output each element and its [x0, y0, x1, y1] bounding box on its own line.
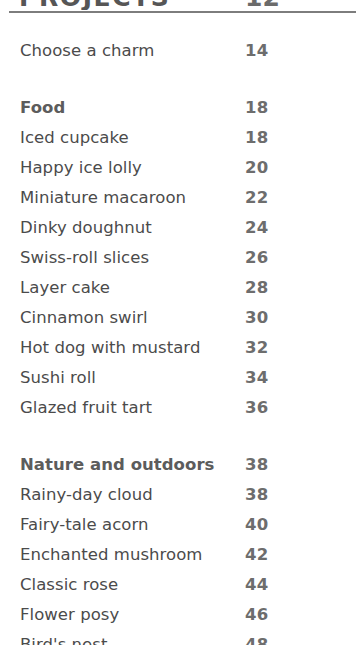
contents-entry-page-number: 18: [245, 93, 269, 123]
contents-entry-row[interactable]: Hot dog with mustard32: [0, 333, 356, 363]
contents-group-food: Food18Iced cupcake18Happy ice lolly20Min…: [0, 93, 356, 423]
contents-entry-label: Fairy-tale acorn: [20, 510, 148, 540]
contents-entry-page-number: 24: [245, 213, 269, 243]
contents-entry-row[interactable]: Layer cake28: [0, 273, 356, 303]
table-of-contents-page: PROJECTS 12 Choose a charm14Food18Iced c…: [0, 0, 356, 645]
contents-entry-row[interactable]: Glazed fruit tart36: [0, 393, 356, 423]
contents-entry-row[interactable]: Bird's nest48: [0, 630, 356, 645]
contents-entry-row[interactable]: Choose a charm14: [0, 36, 356, 66]
contents-entry-label: Classic rose: [20, 570, 118, 600]
contents-entry-row[interactable]: Enchanted mushroom42: [0, 540, 356, 570]
contents-entry-page-number: 38: [245, 450, 269, 480]
contents-entry-label: Rainy-day cloud: [20, 480, 153, 510]
contents-list: Choose a charm14Food18Iced cupcake18Happ…: [0, 36, 356, 645]
contents-entry-row[interactable]: Iced cupcake18: [0, 123, 356, 153]
section-heading-label: Nature and outdoors: [20, 450, 214, 480]
contents-entry-page-number: 18: [245, 123, 269, 153]
contents-entry-row[interactable]: Dinky doughnut24: [0, 213, 356, 243]
contents-entry-label: Choose a charm: [20, 36, 154, 66]
section-heading-row[interactable]: Food18: [0, 93, 356, 123]
contents-entry-page-number: 26: [245, 243, 269, 273]
contents-entry-page-number: 32: [245, 333, 269, 363]
contents-entry-page-number: 22: [245, 183, 269, 213]
contents-entry-label: Sushi roll: [20, 363, 96, 393]
page-title-number: 12: [245, 0, 280, 10]
contents-entry-label: Hot dog with mustard: [20, 333, 200, 363]
section-heading-row[interactable]: Nature and outdoors38: [0, 450, 356, 480]
contents-entry-label: Iced cupcake: [20, 123, 129, 153]
contents-entry-row[interactable]: Sushi roll34: [0, 363, 356, 393]
contents-entry-label: Enchanted mushroom: [20, 540, 203, 570]
title-divider: [9, 11, 356, 13]
contents-entry-label: Bird's nest: [20, 630, 107, 645]
contents-entry-label: Cinnamon swirl: [20, 303, 148, 333]
contents-entry-row[interactable]: Fairy-tale acorn40: [0, 510, 356, 540]
contents-entry-label: Flower posy: [20, 600, 119, 630]
contents-title-row: PROJECTS 12: [0, 0, 356, 10]
contents-entry-label: Glazed fruit tart: [20, 393, 152, 423]
contents-entry-page-number: 44: [245, 570, 269, 600]
contents-entry-row[interactable]: Cinnamon swirl30: [0, 303, 356, 333]
contents-entry-page-number: 30: [245, 303, 269, 333]
contents-entry-page-number: 36: [245, 393, 269, 423]
contents-entry-page-number: 20: [245, 153, 269, 183]
contents-entry-page-number: 34: [245, 363, 269, 393]
contents-entry-page-number: 46: [245, 600, 269, 630]
contents-entry-page-number: 38: [245, 480, 269, 510]
page-title: PROJECTS: [19, 0, 170, 10]
contents-entry-row[interactable]: Classic rose44: [0, 570, 356, 600]
contents-entry-label: Swiss-roll slices: [20, 243, 149, 273]
contents-entry-page-number: 28: [245, 273, 269, 303]
contents-entry-label: Miniature macaroon: [20, 183, 186, 213]
contents-entry-row[interactable]: Happy ice lolly20: [0, 153, 356, 183]
contents-entry-page-number: 42: [245, 540, 269, 570]
contents-entry-page-number: 40: [245, 510, 269, 540]
contents-entry-page-number: 48: [245, 630, 269, 645]
contents-group-intro: Choose a charm14: [0, 36, 356, 66]
contents-entry-row[interactable]: Swiss-roll slices26: [0, 243, 356, 273]
contents-group-nature-and-outdoors: Nature and outdoors38Rainy-day cloud38Fa…: [0, 450, 356, 645]
contents-entry-row[interactable]: Flower posy46: [0, 600, 356, 630]
section-heading-label: Food: [20, 93, 65, 123]
contents-entry-label: Layer cake: [20, 273, 110, 303]
contents-entry-page-number: 14: [245, 36, 269, 66]
contents-entry-row[interactable]: Miniature macaroon22: [0, 183, 356, 213]
contents-entry-row[interactable]: Rainy-day cloud38: [0, 480, 356, 510]
contents-entry-label: Happy ice lolly: [20, 153, 142, 183]
contents-entry-label: Dinky doughnut: [20, 213, 152, 243]
